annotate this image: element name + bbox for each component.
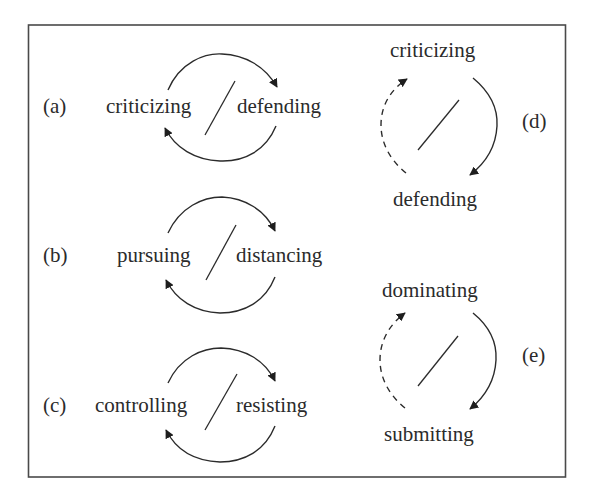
panel-a: (a) criticizing defending bbox=[43, 54, 321, 161]
slash-divider-d bbox=[418, 100, 459, 150]
panel-d: criticizing defending (d) bbox=[381, 38, 547, 211]
panel-label-c: (c) bbox=[43, 393, 66, 417]
slash-divider-a bbox=[205, 81, 235, 135]
panel-c: (c) controlling resisting bbox=[43, 348, 308, 462]
arrow-dashed-up-d bbox=[381, 79, 407, 173]
arrow-top-c bbox=[168, 348, 275, 383]
panel-label-d: (d) bbox=[522, 109, 547, 133]
left-term-b: pursuing bbox=[117, 243, 191, 267]
slash-divider-c bbox=[205, 374, 237, 430]
interaction-cycles-figure: (a) criticizing defending (b) pursuing d… bbox=[0, 0, 595, 501]
arrow-bottom-b bbox=[166, 277, 275, 313]
slash-divider-e bbox=[418, 336, 458, 386]
top-term-e: dominating bbox=[382, 278, 478, 302]
top-term-d: criticizing bbox=[390, 38, 476, 62]
arrow-dashed-up-e bbox=[380, 313, 405, 408]
bottom-term-e: submitting bbox=[384, 422, 474, 446]
arrow-bottom-c bbox=[166, 426, 275, 462]
panel-label-a: (a) bbox=[43, 94, 66, 118]
arrow-top-a bbox=[168, 54, 277, 90]
arrow-solid-down-d bbox=[470, 78, 497, 175]
arrow-top-b bbox=[168, 197, 275, 233]
panel-b: (b) pursuing distancing bbox=[43, 197, 323, 313]
slash-divider-b bbox=[206, 225, 236, 280]
bottom-term-d: defending bbox=[393, 187, 477, 211]
arrow-bottom-a bbox=[165, 126, 276, 161]
left-term-a: criticizing bbox=[106, 94, 192, 118]
right-term-a: defending bbox=[237, 94, 321, 118]
panel-label-b: (b) bbox=[43, 243, 68, 267]
panel-e: dominating submitting (e) bbox=[380, 278, 545, 446]
panel-label-e: (e) bbox=[522, 343, 545, 367]
right-term-b: distancing bbox=[236, 243, 323, 267]
right-term-c: resisting bbox=[236, 393, 308, 417]
arrow-solid-down-e bbox=[470, 313, 496, 409]
left-term-c: controlling bbox=[95, 393, 188, 417]
